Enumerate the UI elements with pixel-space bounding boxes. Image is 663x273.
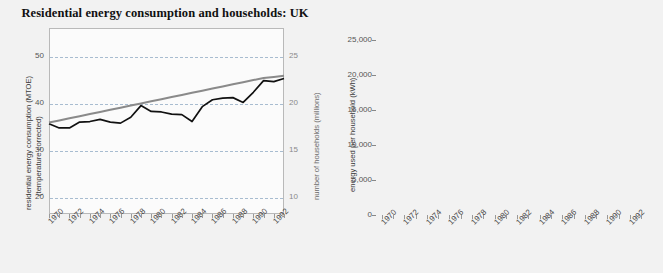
bar-x-tick-mark (416, 215, 417, 219)
bar-x-tick-mark (619, 215, 620, 219)
bar-y-tick-mark (372, 145, 376, 146)
bar-x-tick-label-1978: 1978 (470, 208, 488, 226)
bar-chart-panel: energy used per household (kWh) 05,00010… (332, 0, 663, 273)
x-tick-mark (182, 214, 183, 218)
bar-x-tick-label-1984: 1984 (538, 208, 556, 226)
bar-x-tick-mark (596, 215, 597, 219)
bar-x-tick-mark (483, 215, 484, 219)
bar-y-tick-20000: 20,000 (336, 71, 372, 79)
bar-x-tick-mark (528, 215, 529, 219)
bar-x-tick-label-1976: 1976 (447, 208, 465, 226)
bar-x-tick-mark (641, 215, 642, 219)
x-tick-mark (141, 214, 142, 218)
x-tick-mark (223, 214, 224, 218)
line-series-overlay (0, 0, 332, 273)
x-tick-mark (202, 214, 203, 218)
bar-x-tick-label-1970: 1970 (380, 208, 398, 226)
x-tick-mark (161, 214, 162, 218)
bar-y-tick-25000: 25,000 (336, 36, 372, 44)
bar-y-tick-mark (372, 215, 376, 216)
bar-y-tick-0: 0 (336, 211, 372, 219)
bar-x-tick-mark (506, 215, 507, 219)
line-series-energy-consumption (49, 78, 284, 127)
bar-x-tick-label-1990: 1990 (605, 208, 623, 226)
x-tick-mark (59, 214, 60, 218)
bar-x-tick-label-1992: 1992 (628, 208, 646, 226)
bar-y-tick-mark (372, 180, 376, 181)
bar-y-tick-mark (372, 110, 376, 111)
bar-x-tick-label-1986: 1986 (560, 208, 578, 226)
x-tick-mark (121, 214, 122, 218)
bar-y-tick-10000: 10,000 (336, 141, 372, 149)
figure-root: Residential energy consumption and house… (0, 0, 663, 273)
bar-y-tick-mark (372, 75, 376, 76)
x-tick-mark (264, 214, 265, 218)
bar-x-tick-label-1980: 1980 (493, 208, 511, 226)
bar-x-tick-mark (393, 215, 394, 219)
bar-y-tick-5000: 5,000 (336, 176, 372, 184)
bar-x-tick-label-1982: 1982 (515, 208, 533, 226)
x-tick-mark (284, 214, 285, 218)
bar-y-tick-15000: 15,000 (336, 106, 372, 114)
line-series-households (49, 76, 284, 123)
line-chart-panel: Residential energy consumption and house… (0, 0, 332, 273)
bar-x-tick-label-1974: 1974 (425, 208, 443, 226)
bar-x-tick-mark (438, 215, 439, 219)
bar-x-tick-mark (574, 215, 575, 219)
x-tick-mark (243, 214, 244, 218)
x-tick-mark (80, 214, 81, 218)
bar-y-tick-mark (372, 40, 376, 41)
bar-x-tick-mark (461, 215, 462, 219)
x-tick-mark (100, 214, 101, 218)
bar-x-tick-mark (551, 215, 552, 219)
bar-x-tick-label-1972: 1972 (402, 208, 420, 226)
bar-x-tick-label-1988: 1988 (583, 208, 601, 226)
